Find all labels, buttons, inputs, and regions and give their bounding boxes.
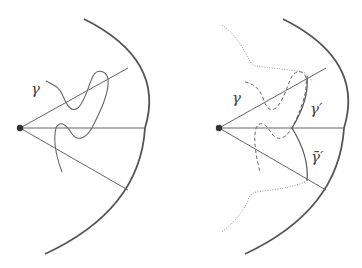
left-outer-arc xyxy=(45,19,149,254)
right-lower-ray xyxy=(219,128,326,190)
right-label-gamma-bar-prime: γ̄′ xyxy=(311,148,324,166)
left-upper-ray xyxy=(20,68,128,128)
diagram-canvas: γ γ γ′ γ̄′ xyxy=(0,0,362,268)
left-center-point xyxy=(17,125,23,131)
left-label-gamma: γ xyxy=(31,80,40,98)
right-dotted-upper-boundary xyxy=(222,25,312,82)
right-center-point xyxy=(216,125,222,131)
right-label-gamma: γ xyxy=(232,89,241,107)
left-panel: γ xyxy=(17,19,149,254)
right-curve-gamma-prime xyxy=(292,76,307,128)
left-curve-gamma xyxy=(46,71,108,172)
right-label-gamma-prime: γ′ xyxy=(310,100,323,118)
right-panel: γ γ′ γ̄′ xyxy=(216,19,348,254)
left-lower-ray xyxy=(20,128,128,190)
right-dashed-curve-gamma xyxy=(245,72,306,172)
right-curve-gamma-bar-prime xyxy=(292,128,307,181)
